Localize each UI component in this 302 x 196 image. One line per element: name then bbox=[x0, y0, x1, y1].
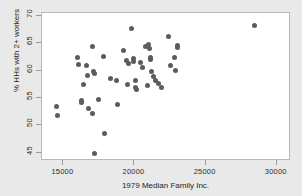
y-tick-mark bbox=[36, 152, 41, 153]
x-tick-label: 15000 bbox=[32, 167, 92, 176]
x-tick-label: 30000 bbox=[246, 167, 302, 176]
x-tick-mark bbox=[205, 160, 206, 165]
y-tick-label: 45 bbox=[0, 146, 34, 155]
y-tick-mark bbox=[36, 70, 41, 71]
y-tick-mark bbox=[36, 15, 41, 16]
x-tick-mark bbox=[62, 160, 63, 165]
y-tick-label: 50 bbox=[0, 118, 34, 127]
y-tick-mark bbox=[36, 42, 41, 43]
x-tick-mark bbox=[276, 160, 277, 165]
y-tick-mark bbox=[36, 124, 41, 125]
y-tick-mark bbox=[36, 97, 41, 98]
x-tick-label: 20000 bbox=[103, 167, 163, 176]
y-axis-title: % HHs with 2+ workers bbox=[12, 0, 21, 111]
x-tick-label: 25000 bbox=[175, 167, 235, 176]
x-axis-title: 1979 Median Family Inc. bbox=[41, 181, 290, 190]
x-tick-mark bbox=[133, 160, 134, 165]
scatter-plot-figure: 455055606570 15000200002500030000 % HHs … bbox=[0, 0, 302, 196]
